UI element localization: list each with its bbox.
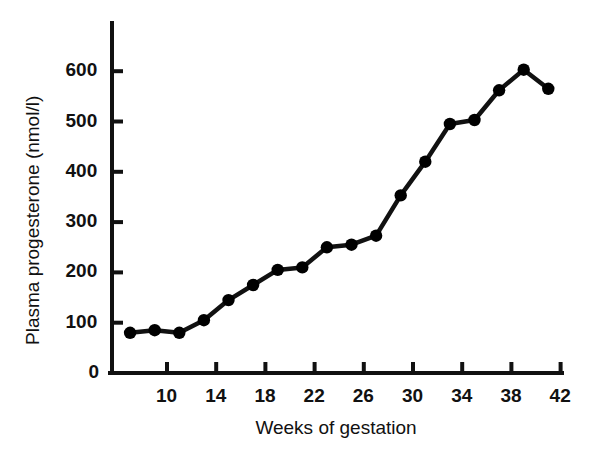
data-point: [518, 63, 530, 75]
data-point: [493, 84, 505, 96]
data-point: [149, 324, 161, 336]
x-tick-label: 42: [550, 385, 571, 407]
data-point: [296, 261, 308, 273]
y-tick-label: 600: [66, 59, 98, 81]
y-tick-label: 400: [66, 160, 98, 182]
x-tick-label: 22: [304, 385, 325, 407]
y-tick-label: 200: [66, 260, 98, 282]
data-point: [321, 241, 333, 253]
data-point: [444, 118, 456, 130]
data-point: [419, 156, 431, 168]
data-point: [370, 230, 382, 242]
data-point: [173, 327, 185, 339]
x-tick-label: 26: [353, 385, 374, 407]
y-tick-label: 300: [66, 210, 98, 232]
x-tick-label: 34: [451, 385, 472, 407]
axis-lines: [110, 23, 562, 373]
y-axis-title: Plasma progesterone (nmol/l): [22, 96, 44, 345]
chart-figure: Plasma progesterone (nmol/l) Weeks of ge…: [0, 0, 597, 461]
data-point: [198, 314, 210, 326]
data-point: [222, 294, 234, 306]
data-line: [130, 70, 548, 333]
data-point: [272, 264, 284, 276]
x-tick-label: 30: [402, 385, 423, 407]
y-tick-label: 100: [66, 311, 98, 333]
data-point: [247, 279, 259, 291]
x-tick-label: 18: [254, 385, 275, 407]
y-tick-label: 0: [89, 361, 100, 383]
x-axis-title: Weeks of gestation: [216, 417, 456, 439]
data-point: [542, 83, 554, 95]
x-tick-label: 38: [500, 385, 521, 407]
data-point: [468, 114, 480, 126]
y-tick-label: 500: [66, 110, 98, 132]
x-tick-label: 14: [205, 385, 226, 407]
x-tick-label: 10: [156, 385, 177, 407]
data-point: [124, 327, 136, 339]
data-point: [345, 239, 357, 251]
data-point: [395, 189, 407, 201]
